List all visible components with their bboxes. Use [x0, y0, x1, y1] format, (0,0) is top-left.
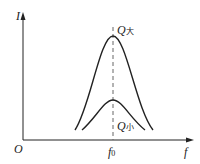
- y-axis-label: I: [16, 10, 20, 22]
- x-axis-label: f: [184, 146, 187, 158]
- q-large-label: Q大: [117, 24, 134, 36]
- q-small-label: Q小: [117, 120, 134, 132]
- origin-label: O: [14, 143, 23, 155]
- f0-label: f0: [108, 146, 115, 158]
- curve-q-large: [75, 36, 153, 130]
- resonance-diagram: [0, 0, 200, 164]
- x-axis-arrow-icon: [186, 138, 194, 143]
- y-axis-arrow-icon: [21, 12, 26, 20]
